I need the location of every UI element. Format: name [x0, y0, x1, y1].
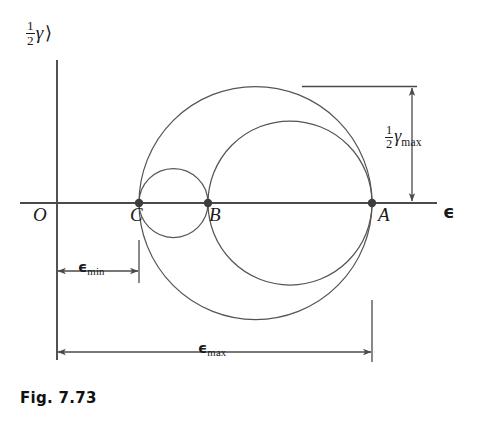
- y-axis-fraction-denominator: 2: [26, 34, 35, 48]
- y-axis-gamma-symbol: γ: [36, 22, 44, 43]
- epsilon-min-dimension-label: ϵmin: [78, 260, 105, 277]
- y-axis-label: 1 2 γ⟩: [26, 19, 52, 47]
- gamma-max-fraction-numerator: 1: [385, 124, 393, 138]
- mohr-circle-diagram: [0, 0, 481, 421]
- epsilon-min-symbol: ϵ: [78, 259, 87, 275]
- y-axis-fraction-numerator: 1: [26, 19, 35, 34]
- x-axis-label: ϵ: [443, 203, 455, 221]
- point-label-a: A: [378, 205, 390, 224]
- epsilon-max-subscript: max: [207, 346, 226, 358]
- axes-group: [20, 60, 437, 360]
- gamma-max-dimension-label: 1 2 γmax: [385, 124, 422, 150]
- gamma-max-subscript: max: [401, 136, 421, 148]
- point-label-b: B: [209, 205, 221, 224]
- epsilon-max-dimension-label: ϵmax: [198, 341, 226, 358]
- mohr-circle-figure: O C B A ϵ 1 2 γ⟩ 1 2 γmax ϵmin ϵmax Fig.…: [0, 0, 481, 421]
- epsilon-min-subscript: min: [87, 265, 104, 277]
- point-label-origin: O: [33, 205, 47, 224]
- gamma-max-fraction: 1 2: [385, 124, 393, 150]
- y-axis-label-fraction: 1 2: [26, 19, 35, 47]
- rotation-arrow-icon: ⟩: [45, 23, 52, 43]
- point-label-c: C: [130, 205, 143, 224]
- gamma-max-fraction-denominator: 2: [385, 138, 393, 151]
- figure-caption: Fig. 7.73: [20, 389, 97, 407]
- point-a-dot: [368, 199, 376, 207]
- epsilon-max-symbol: ϵ: [198, 340, 207, 356]
